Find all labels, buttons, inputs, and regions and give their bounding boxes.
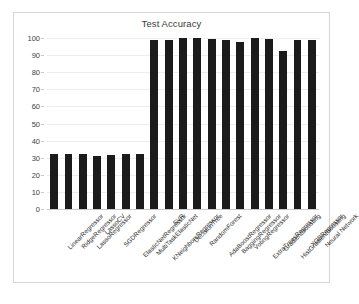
y-tick-mark [41, 72, 44, 73]
y-tick-label: 10 [32, 187, 40, 196]
y-tick-label: 0 [36, 205, 40, 214]
bar [222, 40, 230, 209]
y-tick-mark [41, 106, 44, 107]
bar [136, 154, 144, 209]
bar [265, 39, 273, 209]
plot-area [47, 38, 319, 209]
bar [65, 154, 73, 209]
y-tick-mark [41, 38, 44, 39]
y-tick-label: 20 [32, 170, 40, 179]
bar [93, 156, 101, 209]
bar [294, 40, 302, 209]
y-tick-label: 50 [32, 119, 40, 128]
bar [79, 154, 87, 209]
bar [50, 154, 58, 209]
y-tick-label: 60 [32, 102, 40, 111]
y-tick-label: 90 [32, 51, 40, 60]
bar [107, 155, 115, 209]
y-tick-label: 30 [32, 153, 40, 162]
x-axis: LinearRegressorRidgeRegressorLassoRegres… [47, 209, 319, 284]
bar-series [47, 38, 319, 209]
y-tick-label: 40 [32, 136, 40, 145]
bar [308, 40, 316, 209]
y-axis: 0102030405060708090100 [14, 38, 44, 209]
y-tick-mark [41, 55, 44, 56]
y-tick-mark [41, 209, 44, 210]
bar [150, 40, 158, 209]
y-tick-label: 70 [32, 85, 40, 94]
chart-frame: Test Accuracy 0102030405060708090100 Lin… [13, 12, 330, 283]
y-tick-mark [41, 192, 44, 193]
bar [279, 51, 287, 209]
bar [165, 40, 173, 209]
y-tick-mark [41, 89, 44, 90]
bar [251, 38, 259, 209]
chart-title: Test Accuracy [14, 18, 329, 29]
y-tick-mark [41, 158, 44, 159]
y-tick-mark [41, 175, 44, 176]
bar [236, 42, 244, 209]
bar [179, 38, 187, 209]
bar [193, 38, 201, 209]
y-tick-label: 80 [32, 68, 40, 77]
y-tick-label: 100 [27, 34, 40, 43]
y-tick-mark [41, 141, 44, 142]
y-tick-mark [41, 124, 44, 125]
bar [208, 39, 216, 209]
bar [122, 154, 130, 209]
